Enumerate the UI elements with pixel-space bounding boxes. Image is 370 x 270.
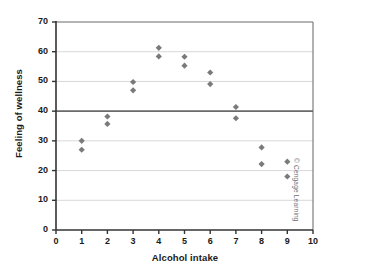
y-tick-label: 50 (22, 75, 48, 85)
y-tick-label: 70 (22, 16, 48, 26)
x-tick-label: 4 (149, 236, 169, 246)
y-tick-label: 60 (22, 46, 48, 56)
x-tick-label: 2 (97, 236, 117, 246)
y-tick-label: 20 (22, 165, 48, 175)
x-tick-label: 8 (252, 236, 272, 246)
y-tick-label: 10 (22, 194, 48, 204)
x-tick-label: 10 (303, 236, 323, 246)
x-tick-label: 0 (46, 236, 66, 246)
x-tick-label: 3 (123, 236, 143, 246)
y-tick-label: 40 (22, 105, 48, 115)
scatter-plot-figure: Feeling of wellness Alcohol intake 01020… (0, 0, 370, 270)
plot-background (56, 22, 313, 230)
x-tick-label: 5 (175, 236, 195, 246)
y-tick-label: 30 (22, 135, 48, 145)
x-tick-label: 7 (226, 236, 246, 246)
x-axis-title: Alcohol intake (55, 252, 315, 263)
plot-canvas (0, 0, 370, 270)
x-tick-label: 6 (200, 236, 220, 246)
y-tick-label: 0 (22, 224, 48, 234)
copyright-credit: © Cengage Learning (293, 158, 300, 270)
x-tick-label: 1 (72, 236, 92, 246)
